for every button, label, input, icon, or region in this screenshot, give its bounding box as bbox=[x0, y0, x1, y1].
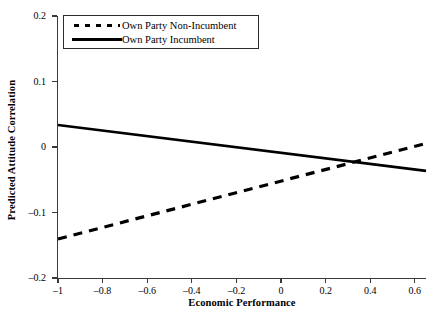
chart-figure: Predicted Attitude Correlation 0.20.10–0… bbox=[0, 0, 436, 320]
x-tick-label: 0.2 bbox=[304, 285, 348, 296]
x-tick-mark bbox=[236, 278, 237, 283]
y-tick-label: –0.2 bbox=[0, 273, 48, 283]
series-lines bbox=[58, 16, 426, 278]
y-tick-mark bbox=[52, 15, 57, 16]
legend-label-non-incumbent: Own Party Non-Incumbent bbox=[122, 19, 236, 32]
legend-label-incumbent: Own Party Incumbent bbox=[122, 33, 215, 46]
x-tick-mark bbox=[280, 278, 281, 283]
x-tick-mark bbox=[102, 278, 103, 283]
x-tick-mark bbox=[147, 278, 148, 283]
y-tick-label: 0 bbox=[0, 142, 48, 152]
x-axis-label: Economic Performance bbox=[58, 297, 426, 308]
x-tick-mark bbox=[325, 278, 326, 283]
x-tick-mark bbox=[191, 278, 192, 283]
series-line-own-party-non-incumbent bbox=[58, 143, 426, 239]
x-tick-label: 0.4 bbox=[348, 285, 392, 296]
x-tick-mark bbox=[57, 278, 58, 283]
plot-area bbox=[58, 16, 426, 278]
x-tick-label: –0.6 bbox=[125, 285, 169, 296]
y-tick-mark bbox=[52, 277, 57, 278]
chart-legend: Own Party Non-Incumbent Own Party Incumb… bbox=[63, 15, 259, 49]
x-tick-label: –1 bbox=[36, 285, 80, 296]
x-tick-label: –0.8 bbox=[81, 285, 125, 296]
x-tick-label: –0.2 bbox=[214, 285, 258, 296]
y-tick-mark bbox=[52, 146, 57, 147]
dashed-line-key bbox=[70, 19, 122, 31]
legend-item-non-incumbent: Own Party Non-Incumbent bbox=[64, 18, 258, 32]
y-tick-label: 0.2 bbox=[0, 11, 48, 21]
y-tick-label: –0.1 bbox=[0, 208, 48, 218]
y-tick-mark bbox=[52, 212, 57, 213]
y-tick-mark bbox=[52, 81, 57, 82]
x-tick-mark bbox=[370, 278, 371, 283]
legend-item-incumbent: Own Party Incumbent bbox=[64, 32, 258, 46]
y-tick-label: 0.1 bbox=[0, 77, 48, 87]
x-tick-label: 0 bbox=[259, 285, 303, 296]
series-line-own-party-incumbent bbox=[58, 125, 426, 171]
solid-line-key bbox=[70, 33, 122, 45]
x-tick-label: –0.4 bbox=[170, 285, 214, 296]
x-tick-mark bbox=[414, 278, 415, 283]
x-tick-label: 0.6 bbox=[393, 285, 436, 296]
